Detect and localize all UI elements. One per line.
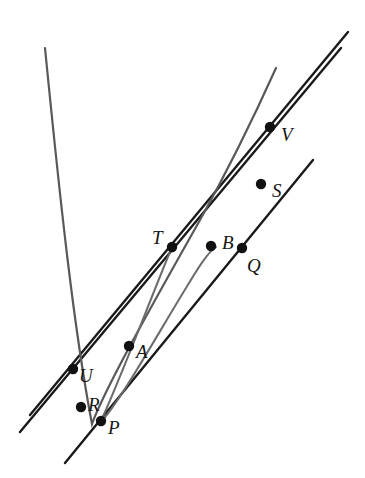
point-label-u: U bbox=[79, 366, 93, 385]
geometry-figure: VSTBQAURP bbox=[0, 0, 365, 478]
point-marker-t[interactable] bbox=[167, 242, 177, 252]
point-marker-r[interactable] bbox=[76, 402, 86, 412]
point-marker-a[interactable] bbox=[124, 341, 134, 351]
point-label-s: S bbox=[272, 181, 282, 200]
figure-canvas bbox=[0, 0, 365, 478]
point-label-v: V bbox=[281, 125, 293, 144]
point-marker-b[interactable] bbox=[206, 241, 216, 251]
line-through-R-B-S bbox=[20, 48, 341, 432]
point-label-q: Q bbox=[247, 256, 261, 275]
point-label-b: B bbox=[222, 233, 234, 252]
point-marker-s[interactable] bbox=[256, 179, 266, 189]
point-marker-p[interactable] bbox=[96, 416, 106, 426]
point-label-p: P bbox=[108, 418, 120, 437]
point-label-r: R bbox=[88, 395, 100, 414]
point-label-t: T bbox=[152, 228, 163, 247]
line-through-U-T-V bbox=[30, 32, 348, 415]
point-label-a: A bbox=[136, 342, 148, 361]
point-marker-u[interactable] bbox=[68, 364, 78, 374]
point-marker-q[interactable] bbox=[237, 243, 247, 253]
point-marker-v[interactable] bbox=[265, 122, 275, 132]
marked-points-group bbox=[68, 122, 275, 426]
small-parabola-through-T-A-P-B bbox=[100, 247, 216, 423]
